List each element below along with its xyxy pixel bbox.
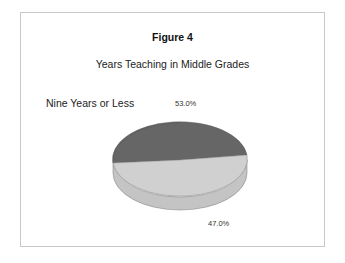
pie-chart [0,0,345,263]
